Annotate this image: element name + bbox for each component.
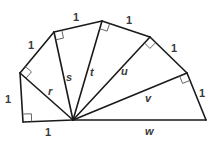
label-u: u [121, 65, 128, 77]
spokes [20, 21, 206, 120]
label-w: w [145, 125, 155, 137]
label-t: t [90, 66, 95, 78]
label-edge-5: 1 [171, 42, 177, 54]
label-v: v [145, 92, 152, 104]
label-edge-2: 1 [28, 39, 34, 51]
right-angle-marker-2 [25, 67, 31, 78]
label-edge-6: 1 [199, 87, 205, 99]
label-s: s [66, 71, 72, 83]
edge-5 [150, 37, 187, 73]
edge-left-leg [20, 73, 23, 122]
right-angle-marker-5 [144, 43, 155, 49]
label-r: r [48, 85, 53, 97]
edge-bottom-leg [23, 120, 73, 122]
right-angle-marker-1 [23, 114, 31, 122]
label-bottom-leg: 1 [45, 126, 51, 138]
label-left-leg: 1 [5, 93, 11, 105]
spoke-v [73, 73, 187, 120]
label-edge-4: 1 [126, 14, 132, 26]
outer-edges [20, 21, 206, 122]
spiral-diagram: 1 1 1 1 1 1 1 r s t u v w [0, 0, 218, 143]
label-edge-3: 1 [73, 11, 79, 23]
